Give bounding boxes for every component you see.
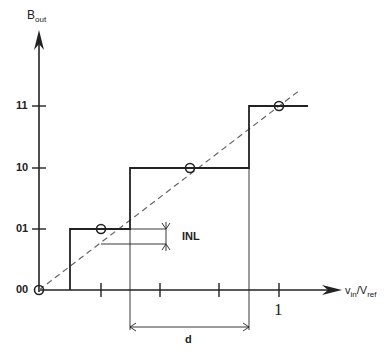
level-10: 10 xyxy=(16,161,28,173)
inl-label: INL xyxy=(182,230,200,242)
staircase-transfer xyxy=(70,106,308,290)
level-11: 11 xyxy=(16,99,28,111)
level-00: 00 xyxy=(16,283,28,295)
x-tick-label-1: 1 xyxy=(274,300,283,320)
ideal-transfer-line xyxy=(39,90,300,290)
y-axis-label: Bout xyxy=(27,8,46,24)
d-label: d xyxy=(185,333,192,345)
adc-transfer-diagram xyxy=(0,0,391,355)
x-axis-label: vin/Vref xyxy=(345,284,376,299)
level-01: 01 xyxy=(16,222,28,234)
